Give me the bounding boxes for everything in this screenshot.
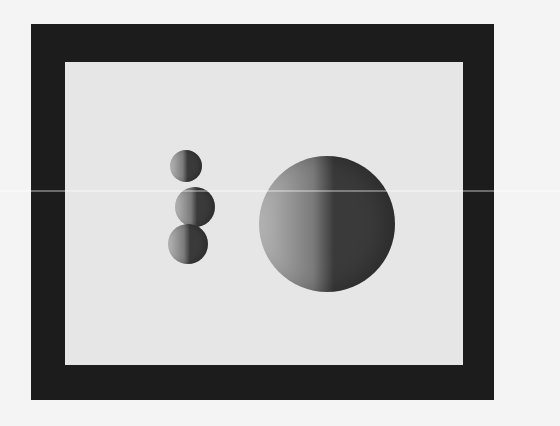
small-sphere-bottom: [168, 224, 208, 264]
scan-line: [0, 190, 560, 192]
small-sphere-top: [170, 150, 202, 182]
small-sphere-middle: [175, 187, 215, 227]
large-sphere: [259, 156, 395, 292]
